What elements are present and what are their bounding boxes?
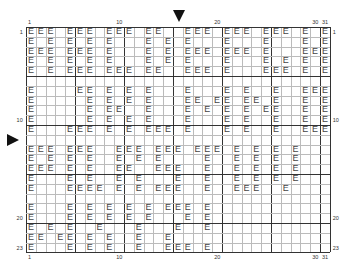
stitch-symbol: E — [320, 125, 330, 135]
column-label-bottom: 20 — [214, 254, 220, 260]
stitch-symbol: E — [85, 184, 95, 194]
stitch-symbol: E — [202, 105, 212, 115]
stitch-symbol: E — [173, 184, 183, 194]
column-label-top: 30 — [312, 19, 318, 25]
stitch-symbol: E — [26, 125, 36, 135]
grid-line-vertical — [173, 27, 174, 252]
stitch-symbol: E — [36, 164, 46, 174]
stitch-symbol: E — [114, 184, 124, 194]
stitch-symbol: E — [65, 184, 75, 194]
stitch-symbol: E — [300, 66, 310, 76]
stitch-symbol: E — [75, 125, 85, 135]
stitch-symbol: E — [202, 184, 212, 194]
stitch-symbol: E — [163, 164, 173, 174]
grid-line-vertical — [95, 27, 96, 252]
row-label-left: 10 — [17, 117, 23, 123]
column-label-top: 1 — [28, 19, 31, 25]
stitch-symbol: E — [163, 184, 173, 194]
grid-line-vertical — [291, 27, 292, 252]
grid-line-vertical — [114, 27, 115, 252]
stitch-symbol: E — [300, 125, 310, 135]
stitch-symbol: E — [251, 96, 261, 106]
stitch-symbol: E — [95, 184, 105, 194]
column-label-top: 20 — [214, 19, 220, 25]
stitch-symbol: E — [153, 125, 163, 135]
grid-line-horizontal — [26, 96, 330, 97]
stitch-symbol: E — [291, 174, 301, 184]
stitch-symbol: E — [281, 184, 291, 194]
stitch-symbol: E — [75, 27, 85, 37]
stitch-symbol: E — [114, 105, 124, 115]
stitch-symbol: E — [202, 223, 212, 233]
grid-line-vertical — [251, 27, 252, 252]
stitch-symbol: E — [173, 203, 183, 213]
grid-line-horizontal — [26, 105, 330, 106]
stitch-symbol: E — [251, 184, 261, 194]
grid-line-vertical — [153, 27, 154, 252]
stitch-symbol: E — [271, 174, 281, 184]
stitch-symbol: E — [183, 66, 193, 76]
stitch-symbol: E — [212, 145, 222, 155]
stitch-symbol: E — [261, 105, 271, 115]
stitch-symbol: E — [65, 66, 75, 76]
stitch-symbol: E — [36, 233, 46, 243]
stitch-symbol: E — [212, 96, 222, 106]
stitch-symbol: E — [124, 27, 134, 37]
stitch-symbol: E — [75, 184, 85, 194]
stitch-symbol: E — [232, 184, 242, 194]
grid-line-vertical — [310, 27, 311, 252]
stitch-symbol: E — [242, 184, 252, 194]
stitch-symbol: E — [193, 47, 203, 57]
stitch-symbol: E — [124, 145, 134, 155]
grid-line-vertical — [55, 27, 56, 252]
stitch-symbol: E — [104, 213, 114, 223]
stitch-symbol: E — [271, 27, 281, 37]
stitch-symbol: E — [144, 213, 154, 223]
stitch-symbol: E — [144, 66, 154, 76]
stitch-symbol: E — [222, 66, 232, 76]
stitch-symbol: E — [95, 223, 105, 233]
stitch-symbol: E — [193, 27, 203, 37]
stitch-symbol: E — [163, 125, 173, 135]
grid-line-horizontal — [26, 252, 330, 253]
stitch-symbol: E — [36, 47, 46, 57]
column-label-bottom: 10 — [116, 254, 122, 260]
column-label-bottom: 30 — [312, 254, 318, 260]
grid-line-horizontal — [26, 76, 330, 77]
stitch-symbol: E — [271, 125, 281, 135]
chart-grid: EEEEEEEEEEEEEEEEEEEEEEEEEEEEEEEEEEEEEEEE… — [26, 27, 330, 252]
row-label-left: 1 — [20, 29, 23, 35]
stitch-symbol: E — [242, 47, 252, 57]
row-label-right: 1 — [333, 29, 336, 35]
stitch-symbol: E — [173, 243, 183, 253]
stitch-symbol: E — [134, 184, 144, 194]
stitch-symbol: E — [310, 125, 320, 135]
stitch-symbol: E — [75, 86, 85, 96]
stitch-symbol: E — [281, 66, 291, 76]
stitch-symbol: E — [261, 66, 271, 76]
stitch-symbol: E — [104, 66, 114, 76]
stitch-symbol: E — [65, 243, 75, 253]
grid-line-vertical — [134, 27, 135, 252]
grid-line-horizontal — [26, 86, 330, 87]
stitch-symbol: E — [193, 96, 203, 106]
stitch-symbol: E — [202, 66, 212, 76]
stitch-symbol: E — [26, 184, 36, 194]
column-label-bottom: 1 — [28, 254, 31, 260]
stitch-symbol: E — [242, 125, 252, 135]
stitch-symbol: E — [85, 125, 95, 135]
stitch-symbol: E — [75, 145, 85, 155]
row-label-left: 23 — [17, 245, 23, 251]
grid-line-horizontal — [26, 135, 330, 136]
stitch-symbol: E — [163, 56, 173, 66]
stitch-symbol: E — [163, 145, 173, 155]
stitch-symbol: E — [104, 125, 114, 135]
grid-line-vertical — [232, 27, 233, 252]
stitch-symbol: E — [183, 243, 193, 253]
grid-line-horizontal — [26, 115, 330, 116]
grid-line-vertical — [271, 27, 272, 252]
grid-line-vertical — [212, 27, 213, 252]
stitch-symbol: E — [310, 86, 320, 96]
stitch-symbol: E — [75, 66, 85, 76]
stitch-symbol: E — [193, 66, 203, 76]
